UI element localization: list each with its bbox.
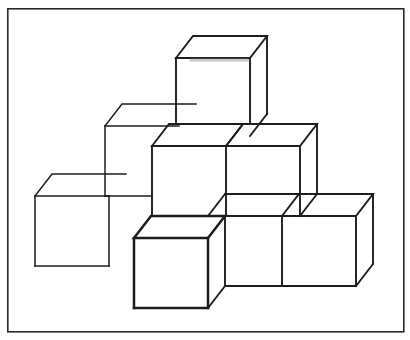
cube-figure-svg — [0, 0, 410, 340]
face-bottom-right — [282, 194, 373, 286]
face-front-bottom-overlay — [134, 216, 225, 308]
face-top-tower — [176, 36, 267, 128]
cube-front-bottom — [134, 216, 225, 308]
figure-root: Stacked unit cubes isometric line drawin… — [0, 0, 410, 340]
